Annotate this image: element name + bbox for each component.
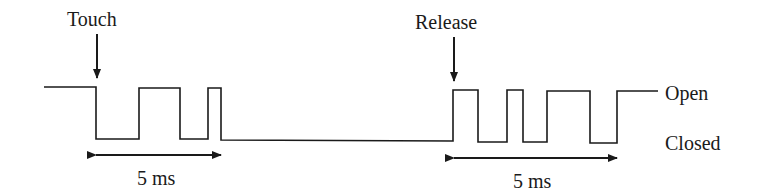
open-state-label: Open — [665, 83, 708, 103]
release-duration-label: 5 ms — [513, 171, 551, 191]
touch-label: Touch — [67, 9, 117, 29]
release-label: Release — [415, 12, 477, 32]
closed-state-label: Closed — [665, 133, 721, 153]
signal-waveform — [44, 87, 658, 143]
touch-duration-label: 5 ms — [137, 168, 175, 188]
